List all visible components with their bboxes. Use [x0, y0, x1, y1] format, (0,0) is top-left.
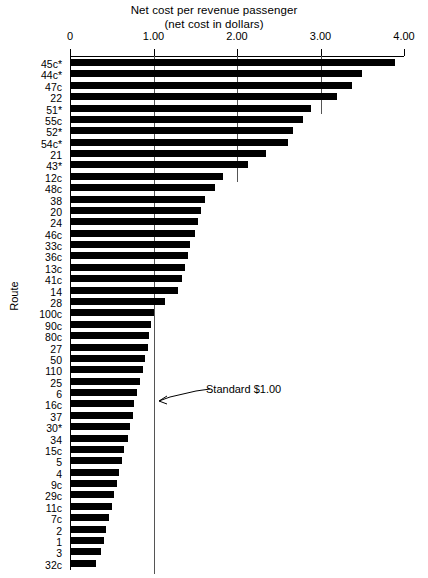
bar-7c — [71, 514, 109, 521]
x-tick-4 — [404, 49, 405, 56]
bar-41c — [71, 275, 182, 282]
route-label-52*: 52* — [46, 127, 62, 138]
bar-48c — [71, 184, 215, 191]
route-label-13c: 13c — [45, 264, 62, 275]
bar-20 — [71, 207, 201, 214]
route-label-9c: 9c — [51, 480, 62, 491]
route-label-24: 24 — [50, 218, 62, 229]
bar-27 — [71, 344, 148, 351]
route-label-1: 1 — [56, 537, 62, 548]
bar-14 — [71, 287, 178, 294]
route-label-44c*: 44c* — [41, 70, 62, 81]
bar-110 — [71, 366, 143, 373]
route-label-41c: 41c — [45, 275, 62, 286]
bar-21 — [71, 150, 266, 157]
bar-28 — [71, 298, 165, 305]
bar-15c — [71, 446, 124, 453]
standard-annotation-label: Standard $1.00 — [206, 383, 281, 395]
bar-55c — [71, 116, 303, 123]
bar-2 — [71, 526, 106, 533]
route-label-5: 5 — [56, 457, 62, 468]
bar-16c — [71, 400, 134, 407]
route-label-20: 20 — [50, 207, 62, 218]
route-label-33c: 33c — [45, 241, 62, 252]
route-label-54c*: 54c* — [41, 139, 62, 150]
bar-29c — [71, 491, 114, 498]
route-label-50: 50 — [50, 355, 62, 366]
route-label-30*: 30* — [46, 423, 62, 434]
bar-3 — [71, 548, 101, 555]
bar-9c — [71, 480, 117, 487]
route-label-22: 22 — [50, 93, 62, 104]
x-tick-1 — [154, 49, 155, 56]
bar-43* — [71, 161, 248, 168]
bar-5 — [71, 457, 122, 464]
route-label-11c: 11c — [46, 503, 62, 514]
bar-34 — [71, 435, 128, 442]
route-label-4: 4 — [56, 469, 62, 480]
route-label-2: 2 — [56, 526, 62, 537]
bar-38 — [71, 196, 205, 203]
bar-4 — [71, 469, 119, 476]
route-label-28: 28 — [50, 298, 62, 309]
bar-52* — [71, 127, 293, 134]
route-label-14: 14 — [50, 287, 62, 298]
route-label-34: 34 — [50, 435, 62, 446]
route-label-46c: 46c — [45, 230, 62, 241]
route-label-100c: 100c — [39, 309, 62, 320]
bar-36c — [71, 252, 188, 259]
bar-45c* — [71, 59, 395, 66]
route-label-47c: 47c — [45, 82, 62, 93]
bar-13c — [71, 264, 185, 271]
route-label-55c: 55c — [45, 116, 62, 127]
route-label-21: 21 — [50, 150, 62, 161]
bar-50 — [71, 355, 145, 362]
bar-44c* — [71, 70, 362, 77]
route-label-48c: 48c — [45, 184, 62, 195]
bar-24 — [71, 218, 198, 225]
route-label-110: 110 — [45, 366, 62, 377]
x-tick-label-0: 0 — [67, 30, 73, 42]
route-label-43*: 43* — [46, 161, 62, 172]
x-tick-2 — [237, 49, 238, 56]
x-tick-label-2: 2.00 — [226, 30, 247, 42]
bar-25 — [71, 378, 140, 385]
route-label-32c: 32c — [45, 560, 62, 571]
bar-100c — [71, 309, 154, 316]
route-label-27: 27 — [50, 344, 62, 355]
bar-46c — [71, 230, 195, 237]
x-tick-label-1: 1.00 — [143, 30, 164, 42]
bar-6 — [71, 389, 137, 396]
x-tick-0 — [70, 49, 71, 56]
bar-51* — [71, 105, 311, 112]
chart-root: Net cost per revenue passenger (net cost… — [0, 0, 428, 578]
route-label-36c: 36c — [45, 252, 62, 263]
x-tick-label-4: 4.00 — [393, 30, 414, 42]
route-label-90c: 90c — [45, 321, 62, 332]
route-label-25: 25 — [50, 378, 62, 389]
y-axis-title: Route — [8, 266, 20, 326]
route-label-12c: 12c — [45, 173, 62, 184]
route-label-6: 6 — [56, 389, 62, 400]
route-label-45c*: 45c* — [41, 59, 62, 70]
bar-22 — [71, 93, 337, 100]
route-label-38: 38 — [50, 196, 62, 207]
route-label-51*: 51* — [46, 105, 62, 116]
x-tick-label-3: 3.00 — [310, 30, 331, 42]
bar-54c* — [71, 139, 288, 146]
bar-1 — [71, 537, 104, 544]
bar-90c — [71, 321, 151, 328]
bar-11c — [71, 503, 112, 510]
route-label-15c: 15c — [45, 446, 62, 457]
route-label-3: 3 — [56, 548, 62, 559]
route-label-37: 37 — [50, 412, 62, 423]
bar-32c — [71, 560, 96, 567]
bar-30* — [71, 423, 130, 430]
route-label-16c: 16c — [45, 400, 62, 411]
bar-80c — [71, 332, 149, 339]
bar-33c — [71, 241, 190, 248]
bar-47c — [71, 82, 352, 89]
route-label-7c: 7c — [51, 514, 62, 525]
route-label-29c: 29c — [45, 491, 62, 502]
bar-37 — [71, 412, 133, 419]
